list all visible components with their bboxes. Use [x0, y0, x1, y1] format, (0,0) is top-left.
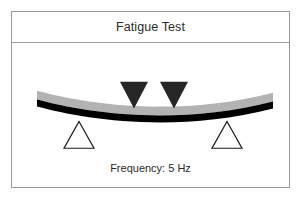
- loading-head-right: [160, 82, 188, 109]
- figure-frame: Fatigue Test: [11, 11, 290, 188]
- figure-title-bar: Fatigue Test: [12, 12, 289, 43]
- fatigue-test-figure: Fatigue Test: [0, 0, 302, 201]
- support-left: [64, 121, 94, 148]
- cyclic-load-arrow-icon: [150, 84, 158, 108]
- loading-head-left: [120, 82, 148, 109]
- frequency-label: Frequency: 5 Hz: [110, 163, 191, 174]
- support-right: [212, 121, 242, 148]
- page-title: Fatigue Test: [116, 21, 185, 34]
- caption-row: Frequency: 5 Hz: [12, 163, 289, 174]
- diagram-canvas: Frequency: 5 Hz: [12, 43, 289, 187]
